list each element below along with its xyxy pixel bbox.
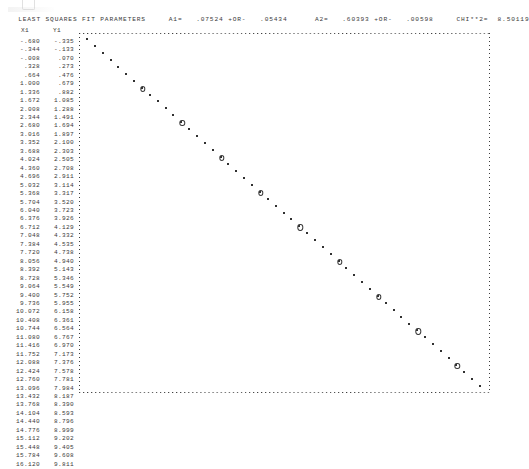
cell-y1: 9.608 <box>43 452 74 460</box>
cell-x1: -.344 <box>10 46 43 54</box>
table-header-row: X1 Y1 <box>10 27 74 38</box>
table-row: 8.3925.143 <box>10 266 74 274</box>
cell-y1: .273 <box>43 63 74 71</box>
a2-label: A2= <box>315 16 329 23</box>
plot-data-point <box>157 100 159 102</box>
cell-y1: 7.781 <box>43 376 74 384</box>
table-row: 7.0484.332 <box>10 232 74 240</box>
plot-data-point <box>448 357 450 359</box>
plot-data-point <box>235 170 237 172</box>
cell-x1: 2.344 <box>10 114 43 122</box>
cell-x1: 10.072 <box>10 308 43 316</box>
table-row: 3.3522.100 <box>10 139 74 147</box>
cell-y1: 1.897 <box>43 131 74 139</box>
cell-x1: 13.096 <box>10 385 43 393</box>
cell-x1: 15.784 <box>10 452 43 460</box>
table-row: 2.3441.491 <box>10 114 74 122</box>
cell-x1: 6.040 <box>10 207 43 215</box>
cell-y1: 7.578 <box>43 368 74 376</box>
table-row: 1.6721.085 <box>10 97 74 105</box>
cell-y1: -.335 <box>43 38 74 46</box>
table-row: 10.7446.564 <box>10 325 74 333</box>
table-row: 8.7285.346 <box>10 275 74 283</box>
plot-data-point <box>479 385 481 387</box>
table-row: 9.7365.955 <box>10 300 74 308</box>
plot-data-point <box>353 274 355 276</box>
table-row: -.344-.133 <box>10 46 74 54</box>
table-row: 5.7043.520 <box>10 199 74 207</box>
cell-y1: 8.593 <box>43 410 74 418</box>
plot-data-point <box>86 38 88 40</box>
cell-x1: 2.680 <box>10 122 43 130</box>
plot-data-point <box>432 343 434 345</box>
plot-data-point <box>330 253 332 255</box>
table-row: .664.476 <box>10 72 74 80</box>
column-header-x1: X1 <box>10 27 40 35</box>
cell-y1: 8.999 <box>43 427 74 435</box>
plot-data-point <box>212 149 214 151</box>
table-row: 11.0806.767 <box>10 334 74 342</box>
table-row: 10.0726.158 <box>10 308 74 316</box>
a1-value: .07524 <box>196 16 223 23</box>
chi-square-label: CHI**2= <box>456 16 488 23</box>
table-row: 1.336.882 <box>10 89 74 97</box>
table-row: 6.0403.723 <box>10 207 74 215</box>
cell-y1: 4.940 <box>43 258 74 266</box>
cell-y1: 8.187 <box>43 393 74 401</box>
a1-label: A1= <box>169 16 183 23</box>
cell-x1: 7.048 <box>10 232 43 240</box>
cell-x1: 8.728 <box>10 275 43 283</box>
cell-x1: -.680 <box>10 38 43 46</box>
plot-data-point <box>275 205 277 207</box>
cell-x1: 6.376 <box>10 215 43 223</box>
plot-fit-marker <box>298 224 303 230</box>
cell-x1: 9.736 <box>10 300 43 308</box>
table-row: 2.0081.288 <box>10 106 74 114</box>
cell-y1: 4.129 <box>43 224 74 232</box>
cell-y1: 7.984 <box>43 385 74 393</box>
cell-x1: 1.672 <box>10 97 43 105</box>
table-row: 12.0887.376 <box>10 359 74 367</box>
plot-data-point <box>204 142 206 144</box>
cell-x1: 9.064 <box>10 283 43 291</box>
plot-data-point <box>165 107 167 109</box>
cell-y1: .679 <box>43 80 74 88</box>
cell-x1: 3.352 <box>10 139 43 147</box>
plot-data-point <box>196 135 198 137</box>
plot-data-point <box>133 80 135 82</box>
plot-data-point <box>251 184 253 186</box>
cell-x1: 7.384 <box>10 241 43 249</box>
table-row: 2.6801.694 <box>10 122 74 130</box>
plot-data-point <box>290 218 292 220</box>
table-row: .328.273 <box>10 63 74 71</box>
cell-x1: 11.752 <box>10 351 43 359</box>
plot-data-point <box>424 336 426 338</box>
cell-x1: 4.696 <box>10 173 43 181</box>
cell-x1: -.008 <box>10 55 43 63</box>
a2-error: .00598 <box>406 16 433 23</box>
plot-data-point <box>361 281 363 283</box>
cell-y1: 8.796 <box>43 418 74 426</box>
cell-x1: 14.776 <box>10 427 43 435</box>
cell-x1: 3.016 <box>10 131 43 139</box>
plot-data-point <box>322 246 324 248</box>
plot-data-point <box>345 267 347 269</box>
character-plot <box>79 33 490 393</box>
table-row: 7.3844.535 <box>10 241 74 249</box>
cell-y1: 3.520 <box>43 199 74 207</box>
cell-x1: 9.400 <box>10 292 43 300</box>
plot-data-point <box>125 73 127 75</box>
a2-plusminus: +OR- <box>374 16 392 23</box>
cell-x1: 10.408 <box>10 317 43 325</box>
plot-fit-marker <box>219 155 224 161</box>
table-row: 16.1209.811 <box>10 461 74 469</box>
cell-x1: 1.336 <box>10 89 43 97</box>
table-row: 13.4328.187 <box>10 393 74 401</box>
table-row: 15.4489.405 <box>10 444 74 452</box>
cell-y1: 5.346 <box>43 275 74 283</box>
table-row: 14.1048.593 <box>10 410 74 418</box>
table-row: -.008.070 <box>10 55 74 63</box>
plot-points-layer <box>79 33 490 393</box>
plot-data-point <box>110 59 112 61</box>
plot-data-point <box>408 323 410 325</box>
